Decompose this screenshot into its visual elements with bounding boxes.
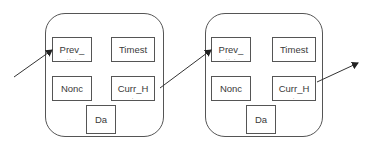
block-1-prev-hash-field: Prev_ .. .: [52, 37, 92, 62]
block-2-current-hash-field: Curr_H .: [272, 76, 316, 101]
block-2-nonce-field: Nonc: [211, 76, 251, 101]
field-label: Da: [247, 114, 275, 125]
field-label: Timest: [112, 44, 154, 55]
block-2-data-field: Da: [246, 105, 276, 134]
arrow-block-2-outgoing-icon: [317, 63, 358, 82]
field-sublabel: .: [273, 94, 315, 100]
arrow-block-1-to-block-2-icon: [160, 50, 211, 88]
blockchain-diagram: Prev_ .. . Timest Nonc Curr_H . Da Prev_…: [0, 0, 373, 147]
block-1-current-hash-field: Curr_H .: [111, 76, 155, 101]
block-1-timestamp-field: Timest: [111, 37, 155, 62]
field-label: Prev_: [212, 44, 250, 55]
block-1-nonce-field: Nonc: [52, 76, 92, 101]
field-sublabel: .: [112, 94, 154, 100]
block-2-prev-hash-field: Prev_ .. .: [211, 37, 251, 62]
field-sublabel: .. .: [212, 55, 250, 61]
block-2-timestamp-field: Timest: [272, 37, 316, 62]
field-sublabel: .. .: [53, 55, 91, 61]
field-label: Nonc: [212, 83, 250, 94]
block-1-data-field: Da: [86, 105, 116, 134]
field-label: Nonc: [53, 83, 91, 94]
field-label: Curr_H: [112, 83, 154, 94]
field-label: Curr_H: [273, 83, 315, 94]
field-label: Prev_: [53, 44, 91, 55]
field-label: Timest: [273, 44, 315, 55]
field-label: Da: [87, 114, 115, 125]
